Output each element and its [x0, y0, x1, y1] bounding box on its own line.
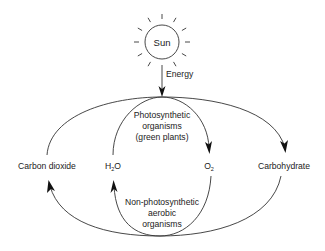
- svg-text:Photosynthetic: Photosynthetic: [134, 110, 191, 120]
- carbon-cycle-diagram: Sun Energy Carbon dioxide H2O O2 Carbohy…: [0, 0, 325, 251]
- energy-arrow: [159, 70, 166, 97]
- water-label: H2O: [105, 161, 121, 172]
- photosynthetic-organisms-label: Photosynthetic organisms (green plants): [134, 110, 191, 142]
- carbon-dioxide-label: Carbon dioxide: [18, 161, 76, 171]
- sun-label: Sun: [154, 37, 171, 48]
- arrow-to-carbon-dioxide-icon: [47, 180, 55, 193]
- svg-text:aerobic: aerobic: [148, 208, 177, 218]
- svg-text:organisms: organisms: [142, 121, 182, 131]
- carbohydrate-label: Carbohydrate: [258, 161, 310, 171]
- non-photosynthetic-organisms-label: Non-photosynthetic aerobic organisms: [125, 197, 200, 229]
- oxygen-label: O2: [204, 161, 214, 172]
- svg-text:(green plants): (green plants): [135, 132, 188, 142]
- arrow-to-carbohydrate-icon: [280, 140, 288, 153]
- svg-text:Non-photosynthetic: Non-photosynthetic: [125, 197, 200, 207]
- svg-text:organisms: organisms: [142, 219, 182, 229]
- energy-label: Energy: [166, 69, 194, 79]
